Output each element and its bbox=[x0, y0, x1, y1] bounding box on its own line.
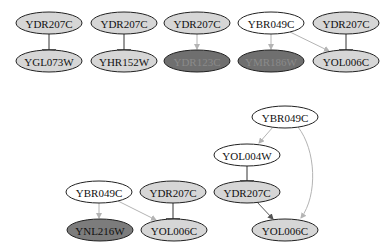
graph-3-edges bbox=[240, 127, 313, 219]
graph-2-edges bbox=[99, 201, 180, 220]
node-label: YOL006C bbox=[151, 225, 197, 237]
graph-3: YBR049CYOL004WYDR207CYOL006C bbox=[214, 106, 318, 241]
node-label: YDR123C bbox=[173, 56, 220, 68]
graph-node[interactable]: YBR049C bbox=[238, 12, 304, 34]
node-label: YBR049C bbox=[262, 112, 308, 124]
graph-node[interactable]: YBR049C bbox=[66, 181, 132, 203]
node-label: YDR207C bbox=[223, 187, 270, 199]
graph-node[interactable]: YDR207C bbox=[313, 12, 379, 34]
node-label: YDR207C bbox=[100, 18, 147, 30]
edge bbox=[257, 202, 273, 219]
node-label: YDR207C bbox=[25, 18, 72, 30]
graph-2: YBR049CYDR207CYNL216WYOL006C bbox=[66, 181, 207, 241]
graph-node[interactable]: YOL006C bbox=[252, 219, 318, 241]
network-diagram: YDR207CYGL073WYDR207CYHR152WYDR207CYDR12… bbox=[0, 0, 392, 252]
graph-node[interactable]: YBR049C bbox=[252, 106, 318, 128]
graph-node[interactable]: YDR207C bbox=[140, 181, 206, 203]
node-label: YGL073W bbox=[24, 56, 74, 68]
node-label: YOL006C bbox=[262, 225, 308, 237]
node-label: YDR207C bbox=[149, 187, 196, 199]
node-label: YBR049C bbox=[76, 187, 122, 199]
activate-edge bbox=[290, 32, 329, 51]
graph-node[interactable]: YDR207C bbox=[91, 12, 157, 34]
activate-edge bbox=[298, 127, 313, 218]
node-label: YNL216W bbox=[75, 225, 125, 237]
graph-node[interactable]: YOL006C bbox=[313, 50, 379, 72]
node-label: YOL004W bbox=[222, 150, 272, 162]
graph-node[interactable]: YNL216W bbox=[67, 219, 133, 241]
activate-edge bbox=[259, 127, 273, 143]
node-label: YDR207C bbox=[173, 18, 220, 30]
graph-node[interactable]: YHR152W bbox=[91, 50, 157, 72]
node-label: YHR152W bbox=[99, 56, 150, 68]
graph-node[interactable]: YOL004W bbox=[214, 144, 280, 166]
node-label: YDR207C bbox=[322, 18, 369, 30]
graph-node[interactable]: YDR207C bbox=[164, 12, 230, 34]
node-label: YOL006C bbox=[323, 56, 369, 68]
graph-node[interactable]: YMR186W bbox=[238, 50, 304, 72]
graph-1-edges bbox=[42, 32, 353, 51]
graph-node[interactable]: YDR123C bbox=[164, 50, 230, 72]
node-label: YMR186W bbox=[245, 56, 298, 68]
graph-node[interactable]: YDR207C bbox=[214, 181, 280, 203]
graph-node[interactable]: YDR207C bbox=[16, 12, 82, 34]
activate-edge bbox=[118, 201, 156, 220]
graph-node[interactable]: YOL006C bbox=[141, 219, 207, 241]
node-label: YBR049C bbox=[248, 18, 294, 30]
graph-node[interactable]: YGL073W bbox=[16, 50, 82, 72]
